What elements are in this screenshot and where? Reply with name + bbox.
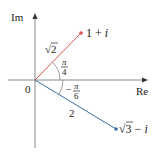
- angle-label-minus-sign: −: [66, 84, 72, 95]
- modulus-label-sqrt2: √2: [45, 43, 57, 55]
- origin-label: 0: [25, 83, 31, 95]
- angle-label-pi-6-den: 6: [74, 91, 79, 101]
- point-label-sqrt3-minus-i: √3 − i: [119, 122, 148, 136]
- modulus-label-2: 2: [69, 107, 75, 119]
- y-axis-label: Im: [11, 11, 24, 23]
- complex-plane-diagram: Im Re 0 1 + i √2 π 4 √3 − i 2 − π 6: [0, 0, 161, 157]
- vector-1-plus-i: [35, 33, 81, 80]
- point-label-1-plus-i: 1 + i: [86, 26, 108, 40]
- angle-arc-minus-pi-6: [59, 80, 63, 95]
- angle-label-pi-6-num: π: [74, 81, 79, 91]
- angle-arc-pi-4: [53, 62, 60, 80]
- angle-label-pi-4-num: π: [62, 57, 67, 67]
- angle-label-pi-4-den: 4: [62, 67, 67, 77]
- point-1-plus-i: [79, 31, 83, 35]
- x-axis-label: Re: [136, 85, 148, 97]
- point-sqrt3-minus-i: [114, 127, 118, 131]
- imaginary-axis-arrow-icon: [33, 13, 38, 19]
- real-axis-arrow-icon: [142, 78, 148, 83]
